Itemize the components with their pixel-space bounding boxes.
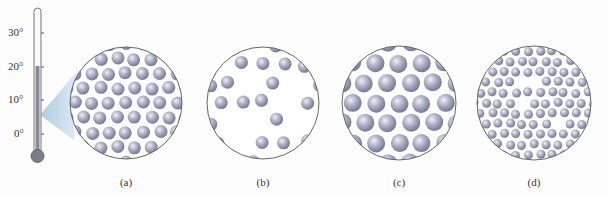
particle	[95, 81, 108, 94]
particle	[541, 99, 550, 108]
particle	[412, 134, 430, 152]
particle	[542, 140, 551, 149]
particle	[506, 58, 515, 67]
particle	[489, 108, 498, 117]
particle	[119, 66, 132, 79]
particle	[235, 56, 248, 69]
particle	[153, 96, 166, 109]
particle	[128, 111, 141, 124]
particle	[204, 79, 217, 92]
particle	[256, 57, 269, 70]
particle	[86, 127, 99, 140]
particle	[111, 140, 124, 153]
particle	[163, 111, 176, 124]
particle	[402, 114, 420, 132]
tick-30: 30°	[8, 26, 23, 38]
particle	[542, 77, 551, 86]
particle	[171, 67, 184, 80]
particle	[255, 94, 268, 107]
particle	[162, 81, 175, 94]
particle	[93, 111, 106, 124]
particle	[237, 96, 250, 109]
particle	[523, 68, 532, 77]
particle	[424, 73, 442, 91]
particle	[401, 154, 419, 172]
particle	[103, 127, 116, 140]
particle	[559, 129, 568, 138]
particle	[313, 79, 326, 92]
particle	[571, 89, 580, 98]
particle	[155, 125, 168, 138]
particle	[511, 68, 520, 77]
particle	[128, 141, 141, 154]
particle	[270, 113, 283, 126]
particle-diagram: 30° 20° 10° 0° (a) (b) (c) (d)	[0, 0, 608, 198]
particle	[565, 99, 574, 108]
particle	[76, 53, 89, 66]
particle	[448, 115, 466, 133]
thermometer-icon	[31, 8, 44, 163]
particle	[500, 129, 509, 138]
particle	[356, 114, 374, 132]
panel-d-particles	[470, 46, 598, 160]
tick-0: 0°	[14, 127, 24, 139]
particle	[391, 95, 409, 113]
particle	[553, 141, 562, 150]
panel-c-label: (c)	[379, 176, 419, 188]
particle	[119, 156, 132, 169]
particle	[524, 47, 533, 56]
particle	[215, 96, 228, 109]
particle	[542, 120, 551, 129]
particle	[425, 113, 443, 131]
particle	[524, 130, 533, 139]
particle	[266, 77, 279, 90]
particle	[529, 57, 538, 66]
particle	[86, 67, 99, 80]
particle	[378, 74, 396, 92]
particle	[269, 39, 282, 52]
particle	[163, 52, 176, 65]
particle	[530, 139, 539, 148]
particle	[482, 120, 491, 129]
particle	[517, 141, 526, 150]
particle	[511, 129, 520, 138]
particle	[572, 108, 581, 117]
particle	[499, 89, 508, 98]
particle	[571, 68, 580, 77]
particle	[493, 100, 502, 109]
particle	[76, 82, 89, 95]
particle	[500, 108, 509, 117]
particle	[333, 113, 351, 131]
particle	[437, 94, 455, 112]
particle	[506, 141, 515, 150]
particle	[112, 83, 125, 96]
particle	[120, 37, 133, 50]
particle	[548, 87, 557, 96]
particle	[85, 97, 98, 110]
particle	[529, 120, 538, 129]
particle	[494, 78, 503, 87]
particle	[566, 120, 575, 129]
particle	[571, 129, 580, 138]
particle	[499, 150, 508, 159]
particle	[536, 129, 545, 138]
particle	[488, 87, 497, 96]
particle	[493, 119, 502, 128]
particle	[119, 126, 132, 139]
particle	[137, 96, 150, 109]
particle	[554, 77, 563, 86]
particle	[378, 114, 396, 132]
particle	[548, 67, 557, 76]
particle	[589, 100, 598, 109]
particle	[512, 89, 521, 98]
particle	[524, 110, 533, 119]
particle	[127, 53, 140, 66]
particle	[277, 136, 290, 149]
particle	[506, 99, 515, 108]
particle	[137, 126, 150, 139]
particle	[112, 51, 125, 64]
particle	[448, 74, 466, 92]
particle	[367, 95, 385, 113]
diagram-canvas	[0, 0, 608, 198]
panel-a-label: (a)	[106, 176, 146, 188]
